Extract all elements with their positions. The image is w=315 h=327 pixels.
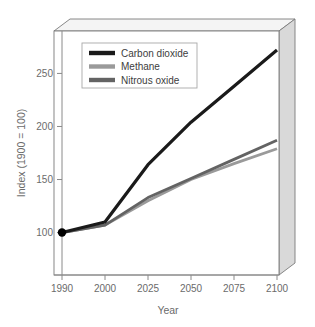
legend-label-carbon-dioxide: Carbon dioxide [121, 48, 189, 59]
x-axis-tick-labels: 199020002025205020752100 [51, 283, 289, 294]
greenhouse-gas-index-line-chart: 100150200250 199020002025205020752100 Ye… [0, 0, 315, 327]
y-axis-tick-labels: 100150200250 [36, 68, 53, 238]
legend-label-methane: Methane [121, 61, 160, 72]
x-tick-label-2000: 2000 [94, 283, 117, 294]
y-tick-label-150: 150 [36, 174, 53, 185]
legend-label-nitrous-oxide: Nitrous oxide [121, 75, 180, 86]
x-tick-label-2050: 2050 [180, 283, 203, 294]
x-tick-label-2025: 2025 [137, 283, 160, 294]
y-axis-title: Index (1900 = 100) [15, 109, 27, 197]
y-tick-label-100: 100 [36, 227, 53, 238]
x-axis-title: Year [157, 304, 179, 316]
panel-right-face [279, 19, 295, 275]
data-point-markers [58, 228, 66, 236]
chart-figure: 100150200250 199020002025205020752100 Ye… [0, 0, 315, 327]
marker-start-point [58, 228, 66, 236]
x-tick-label-1990: 1990 [51, 283, 74, 294]
x-tick-label-2100: 2100 [266, 283, 289, 294]
panel-top-face [54, 19, 295, 31]
x-tick-label-2075: 2075 [223, 283, 246, 294]
x-axis-ticks [62, 275, 277, 280]
y-tick-label-250: 250 [36, 68, 53, 79]
chart-legend[interactable]: Carbon dioxideMethaneNitrous oxide [82, 43, 197, 88]
y-tick-label-200: 200 [36, 121, 53, 132]
